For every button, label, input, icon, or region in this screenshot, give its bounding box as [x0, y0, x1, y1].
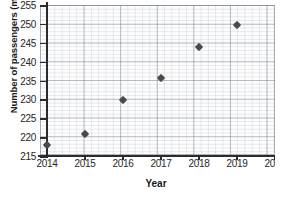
- y-tick-mark: [40, 81, 46, 83]
- y-axis-title: Number of passengers (million): [8, 0, 19, 119]
- y-tick-mark: [40, 118, 46, 120]
- x-tick-label: 2018: [182, 158, 216, 169]
- x-axis-tick-labels: 2014201520162017201820192020: [0, 158, 288, 174]
- y-tick-label: 220: [10, 132, 36, 143]
- y-tick-mark: [40, 5, 46, 7]
- paper-margin: [275, 0, 288, 199]
- y-tick-mark: [40, 24, 46, 26]
- y-tick-mark: [40, 99, 46, 101]
- x-axis-line: [38, 155, 277, 157]
- plot-area-graph-paper: [40, 5, 275, 155]
- x-tick-label: 2016: [106, 158, 140, 169]
- x-tick-label: 2017: [144, 158, 178, 169]
- scatter-chart-figure: 215220225230235240245250255 201420152016…: [0, 0, 288, 199]
- x-tick-label: 2019: [220, 158, 254, 169]
- y-tick-mark: [40, 43, 46, 45]
- x-tick-label: 2015: [68, 158, 102, 169]
- y-tick-mark: [40, 137, 46, 139]
- x-axis-title: Year: [36, 178, 276, 189]
- x-tick-label: 2014: [30, 158, 64, 169]
- y-tick-mark: [40, 62, 46, 64]
- y-axis-line: [46, 2, 48, 158]
